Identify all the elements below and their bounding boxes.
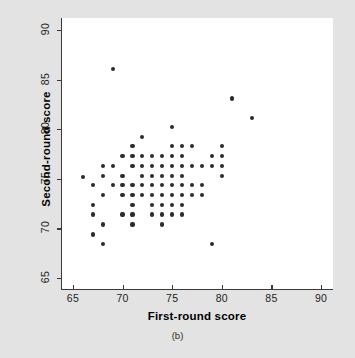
data-point <box>120 183 124 187</box>
data-point <box>101 222 105 226</box>
y-tick-mark <box>57 228 62 229</box>
data-point <box>200 164 204 168</box>
scatter-plot-figure: 657075808590 657075808590 First-round sc… <box>0 0 355 358</box>
data-point <box>230 96 234 100</box>
data-point <box>130 183 134 187</box>
data-point <box>130 193 134 197</box>
y-tick-mark <box>57 179 62 180</box>
x-tick-mark <box>222 285 223 290</box>
data-point <box>120 212 124 216</box>
data-point <box>120 174 124 178</box>
data-point <box>180 203 184 207</box>
y-tick-mark <box>57 278 62 279</box>
data-point <box>220 174 224 178</box>
data-point <box>130 144 134 148</box>
x-tick-mark <box>271 285 272 290</box>
figure-caption: (b) <box>0 330 355 341</box>
data-point <box>91 183 95 187</box>
y-tick-mark <box>57 30 62 31</box>
data-point <box>101 164 105 168</box>
y-axis-label: Second-round score <box>40 91 52 206</box>
x-axis-label: First-round score <box>61 310 333 322</box>
data-point <box>130 154 134 158</box>
data-point <box>180 193 184 197</box>
data-point <box>210 164 214 168</box>
y-axis-line <box>61 18 62 290</box>
data-point <box>180 183 184 187</box>
data-point <box>220 164 224 168</box>
data-point <box>111 67 115 71</box>
x-tick-label: 85 <box>256 292 286 304</box>
data-point <box>250 116 254 120</box>
data-point <box>130 222 134 226</box>
data-point <box>200 193 204 197</box>
data-point <box>180 212 184 216</box>
data-point <box>220 144 224 148</box>
data-point <box>160 212 164 216</box>
y-tick-mark <box>57 80 62 81</box>
y-tick-mark <box>57 129 62 130</box>
data-point <box>190 183 194 187</box>
data-point <box>111 164 115 168</box>
data-point <box>91 203 95 207</box>
data-point <box>220 154 224 158</box>
data-point <box>101 193 105 197</box>
x-tick-label: 80 <box>207 292 237 304</box>
x-tick-label: 65 <box>58 292 88 304</box>
data-point <box>120 193 124 197</box>
x-tick-mark <box>123 285 124 290</box>
x-tick-label: 75 <box>157 292 187 304</box>
data-point <box>91 212 95 216</box>
data-point <box>200 183 204 187</box>
data-point <box>190 193 194 197</box>
data-point <box>130 212 134 216</box>
x-axis-line <box>61 289 333 290</box>
data-point <box>130 164 134 168</box>
data-point <box>170 212 174 216</box>
x-tick-mark <box>172 285 173 290</box>
data-point <box>101 174 105 178</box>
x-tick-label: 70 <box>108 292 138 304</box>
x-tick-label: 90 <box>306 292 336 304</box>
data-point <box>91 232 95 236</box>
data-point <box>120 154 124 158</box>
data-point <box>130 203 134 207</box>
data-point <box>111 183 115 187</box>
data-point <box>160 222 164 226</box>
y-axis-label-wrapper: Second-round score <box>36 19 54 279</box>
data-point <box>81 175 85 179</box>
data-point <box>210 154 214 158</box>
x-tick-mark <box>321 285 322 290</box>
plot-canvas <box>61 18 333 290</box>
data-point <box>170 193 174 197</box>
x-tick-mark <box>73 285 74 290</box>
data-point <box>170 203 174 207</box>
